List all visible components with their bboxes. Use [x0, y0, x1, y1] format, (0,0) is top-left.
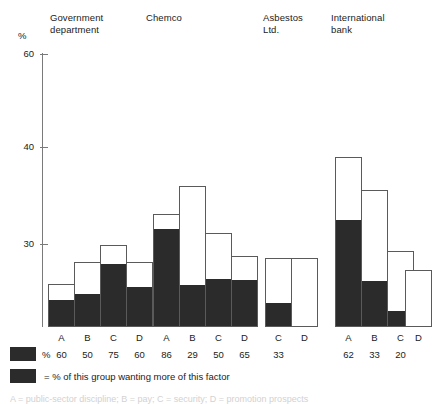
value-asbestos-C: 33	[265, 349, 292, 360]
bar-international-bank-A	[335, 157, 362, 327]
axis-unit-label: %	[18, 31, 26, 41]
bar-chemco-D	[231, 256, 258, 327]
column-letter-chemco-C: C	[205, 332, 232, 343]
figure-footnote: A = public-sector discipline; B = pay; C…	[10, 394, 425, 404]
value-chemco-D: 65	[231, 349, 258, 360]
bar-chemco-A	[153, 214, 180, 327]
group-header-government-department: Government department	[50, 12, 145, 35]
column-letter-asbestos-C: C	[265, 332, 292, 343]
bar-chemco-B	[179, 186, 206, 327]
group-header-chemco: Chemco	[146, 12, 241, 24]
group-header-international-bank: International bank	[331, 12, 426, 35]
y-axis-line	[42, 53, 43, 327]
bar-government-department-A	[48, 284, 75, 327]
bar-fill-government-department-D	[127, 287, 152, 326]
bar-fill-chemco-A	[154, 229, 179, 326]
bar-chemco-C	[205, 233, 232, 327]
legend-swatch-note	[10, 369, 36, 383]
column-letter-gov-D: D	[126, 332, 153, 343]
bar-government-department-B	[74, 262, 101, 327]
column-letter-gov-C: C	[100, 332, 127, 343]
bar-fill-chemco-D	[232, 280, 257, 326]
column-letter-chemco-D: D	[231, 332, 258, 343]
y-tick-40	[40, 147, 48, 148]
column-letter-bank-A: A	[335, 332, 362, 343]
value-gov-A: 60	[48, 349, 75, 360]
bar-fill-government-department-B	[75, 294, 100, 326]
bar-international-bank-D	[405, 270, 432, 327]
bar-asbestos-ltd-C	[265, 258, 292, 327]
value-bank-C: 20	[387, 349, 414, 360]
y-tick-30	[40, 244, 48, 245]
value-gov-D: 60	[126, 349, 153, 360]
column-letter-chemco-A: A	[153, 332, 180, 343]
bar-fill-government-department-A	[49, 300, 74, 326]
bar-fill-international-bank-A	[336, 220, 361, 326]
value-gov-B: 50	[74, 349, 101, 360]
bar-fill-chemco-C	[206, 279, 231, 326]
y-tick-label-30: 30	[8, 239, 34, 249]
column-letter-gov-A: A	[48, 332, 75, 343]
bar-fill-asbestos-ltd-C	[266, 303, 291, 326]
y-tick-label-40: 40	[8, 142, 34, 152]
column-letter-gov-B: B	[74, 332, 101, 343]
bar-international-bank-B	[361, 190, 388, 327]
column-letter-bank-D: D	[405, 332, 432, 343]
value-chemco-C: 50	[205, 349, 232, 360]
column-letter-chemco-B: B	[179, 332, 206, 343]
value-gov-C: 75	[100, 349, 127, 360]
bar-fill-chemco-B	[180, 285, 205, 326]
value-chemco-B: 29	[179, 349, 206, 360]
y-tick-label-60: 60	[8, 49, 34, 59]
bar-fill-government-department-C	[101, 264, 126, 326]
legend-swatch-values-row	[10, 347, 36, 361]
value-bank-B: 33	[361, 349, 388, 360]
y-tick-60	[40, 54, 48, 55]
group-header-asbestos-ltd: Asbestos Ltd.	[263, 12, 326, 35]
column-letter-asbestos-D: D	[291, 332, 318, 343]
bar-asbestos-ltd-D	[291, 258, 318, 327]
bar-government-department-D	[126, 262, 153, 327]
value-chemco-A: 86	[153, 349, 180, 360]
legend-note-text: = % of this group wanting more of this f…	[44, 371, 230, 382]
bar-government-department-C	[100, 245, 127, 327]
value-bank-A: 62	[335, 349, 362, 360]
column-letter-bank-B: B	[361, 332, 388, 343]
bar-fill-international-bank-B	[362, 281, 387, 326]
